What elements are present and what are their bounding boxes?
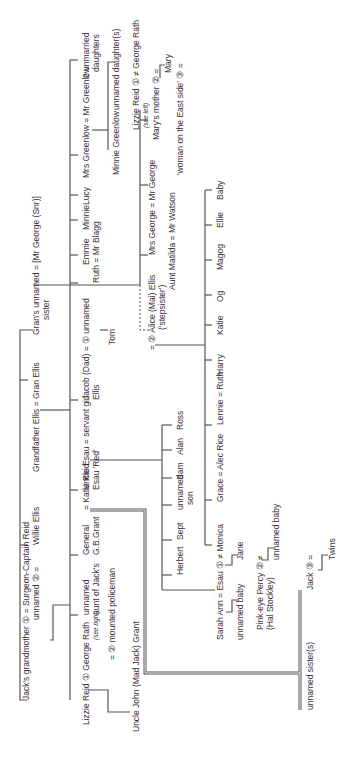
person-label-harry: Harry bbox=[216, 354, 225, 375]
person-label-sam: Sam bbox=[176, 463, 185, 480]
person-label-og: Og bbox=[216, 291, 225, 302]
person-label-lennie: Lennie = Ruth bbox=[216, 372, 225, 425]
person-label-jack: Jack ③ = bbox=[306, 555, 315, 590]
person-label-unmarried2: daughters bbox=[92, 34, 101, 72]
person-label-unnamed-baby1: unnamed baby bbox=[236, 584, 245, 640]
person-label-sarah-ann: Sarah Ann = Esau ① ≠ Monica bbox=[216, 524, 225, 640]
person-label-lizzie-reid2: Lizzie Reid ① ≠ George Rath bbox=[132, 20, 141, 130]
person-label-ruth: Ruth = Mr Blagg bbox=[92, 221, 101, 283]
person-label-unnamed-baby2: unnamed baby bbox=[272, 504, 281, 560]
person-label-lizzie-reid: Lizzie Reid ① George Rath bbox=[82, 622, 91, 725]
person-label-jane: Jane bbox=[236, 542, 245, 560]
person-label-unnamed-aunt: unnamed bbox=[82, 580, 91, 615]
person-label-jacob: Jacob (Dad) = ① unnamed bbox=[82, 298, 91, 400]
person-label-grans-sister: Gran's unnamed = [Mr George (Snr)] bbox=[32, 196, 41, 335]
person-label-general2: G.B.Grant bbox=[92, 517, 101, 555]
person-label-see-right: (see right) bbox=[92, 611, 99, 640]
person-label-uncle-esau: Uncle Esau = servant girl bbox=[82, 395, 91, 490]
person-label-see-left: (see left) bbox=[142, 103, 149, 128]
person-label-baby: Baby bbox=[216, 181, 225, 200]
family-tree-diagram: Jack's grandmother ① = Surgeon-Captain R… bbox=[0, 0, 358, 784]
person-label-emmie: Emmie bbox=[82, 239, 91, 265]
person-label-ellie: Ellie bbox=[216, 212, 225, 228]
person-label-willie: Willie Ellis bbox=[32, 507, 41, 545]
person-label-mrs-greenlow: Mrs Greenlow = Mr Greenlow bbox=[82, 67, 91, 178]
person-label-grans-sister2: sister bbox=[42, 300, 51, 320]
person-label-unnamed-aunt2: aunt of Jack's bbox=[92, 563, 101, 615]
person-label-grace: Grace = Alec Rice bbox=[216, 434, 225, 502]
person-label-minnie: Minnie bbox=[82, 205, 91, 230]
person-label-tom: Tom bbox=[108, 329, 117, 345]
person-label-unnamed-sisters: unnamed sister(s) bbox=[306, 642, 315, 710]
person-label-aunt-matilda: Aunt Matilda = Mr Watson bbox=[168, 192, 177, 290]
person-label-jacks-grandmother: Jack's grandmother ① = Surgeon-Captain R… bbox=[22, 522, 31, 700]
person-label-mary: Mary bbox=[164, 54, 173, 73]
person-label-sept: Sept bbox=[176, 523, 185, 541]
person-label-minnie-greenlow: Minnie Greenlow bbox=[112, 111, 121, 175]
person-label-general: General bbox=[82, 525, 91, 555]
person-label-herbert: Herbert bbox=[176, 547, 185, 575]
person-label-unnamed2: unnamed ② = bbox=[32, 567, 41, 620]
person-label-unnamed-daughters: unnamed daughter(s) bbox=[112, 29, 121, 110]
person-label-pink-eye: Pink-eye Percy ② ≠ bbox=[256, 555, 265, 630]
person-label-twins: Twins bbox=[328, 538, 337, 560]
person-label-alice2: ('stepsister') bbox=[158, 285, 167, 330]
person-label-magog: Magog bbox=[216, 244, 225, 270]
person-label-uncle-john: Uncle John (Mad Jack) Grant bbox=[132, 621, 141, 732]
person-label-pink-eye2: (Hal Stockley) bbox=[266, 577, 275, 630]
person-label-grandfather: Grandfather Ellis = Gran Ellis bbox=[32, 362, 41, 472]
person-label-jacob2: Ellis bbox=[92, 384, 101, 400]
person-label-katie: Katie bbox=[216, 316, 225, 335]
person-label-alice: = ② Alice (Mai) Ellis bbox=[148, 275, 157, 350]
person-label-lucy: Lucy bbox=[82, 187, 91, 205]
person-label-ross: Ross bbox=[176, 411, 185, 430]
person-label-unmarried: 2 unmarried bbox=[82, 33, 91, 78]
person-label-unnamed-son2: son bbox=[186, 491, 195, 505]
person-label-uncle-esau2: Esau 'Red' bbox=[92, 449, 101, 490]
person-label-marys-mother: Mary's mother ② = bbox=[152, 69, 161, 140]
person-label-woman-east: 'woman on the East side' ③ = bbox=[176, 63, 185, 175]
person-label-mrs-george: Mrs George = Mr George bbox=[148, 160, 157, 255]
person-label-mounted-policeman: = ② mounted policeman bbox=[108, 568, 117, 660]
person-label-alan: Alan bbox=[176, 438, 185, 455]
